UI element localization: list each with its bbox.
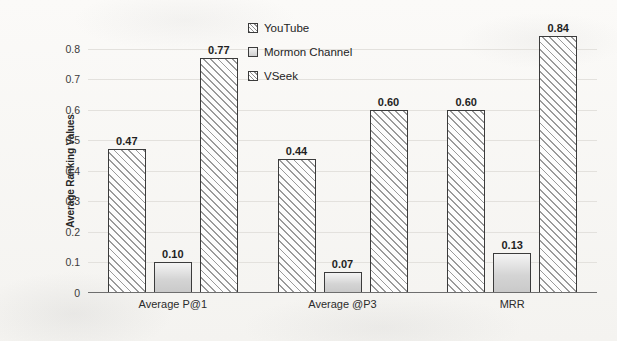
bar-value-label: 0.47 <box>116 135 137 147</box>
bar[interactable]: 0.10 <box>154 262 192 293</box>
bar-group: 0.600.130.84 <box>427 18 597 293</box>
bar-value-label: 0.77 <box>208 44 229 56</box>
bar-slot: 0.84 <box>539 36 577 293</box>
x-axis-category-label: MRR <box>427 298 597 310</box>
x-axis-category-label: Average @P3 <box>258 298 428 310</box>
bar-slot: 0.13 <box>493 253 531 293</box>
bar[interactable]: 0.84 <box>539 36 577 293</box>
bar-value-label: 0.10 <box>162 248 183 260</box>
bar[interactable]: 0.77 <box>200 58 238 293</box>
bar-slot: 0.60 <box>370 110 408 293</box>
y-axis-tick-label: 0.7 <box>65 73 80 85</box>
legend-swatch-icon <box>248 47 258 57</box>
bar[interactable]: 0.47 <box>108 149 146 293</box>
chart-legend: YouTubeMormon ChannelVSeek <box>248 22 352 82</box>
legend-item[interactable]: Mormon Channel <box>248 46 352 58</box>
y-axis-tick-label: 0 <box>74 287 80 299</box>
y-axis-tick-label: 0.6 <box>65 104 80 116</box>
bar-value-label: 0.07 <box>332 258 353 270</box>
bar[interactable]: 0.44 <box>278 159 316 293</box>
bar-slot: 0.10 <box>154 262 192 293</box>
legend-label: Mormon Channel <box>264 46 352 58</box>
bar-value-label: 0.13 <box>501 239 522 251</box>
bar[interactable]: 0.60 <box>370 110 408 293</box>
y-axis-tick-label: 0.3 <box>65 195 80 207</box>
bar-slot: 0.47 <box>108 149 146 293</box>
y-axis-tick-label: 0.4 <box>65 165 80 177</box>
y-axis-tick-label: 0.1 <box>65 256 80 268</box>
bar[interactable]: 0.13 <box>493 253 531 293</box>
y-axis-tick-label: 0.5 <box>65 134 80 146</box>
bar-value-label: 0.60 <box>378 96 399 108</box>
legend-label: YouTube <box>264 22 309 34</box>
bar-slot: 0.77 <box>200 58 238 293</box>
legend-swatch-icon <box>248 23 258 33</box>
x-axis-category-label: Average P@1 <box>88 298 258 310</box>
y-axis-tick-label: 0.8 <box>65 43 80 55</box>
bar-slot: 0.44 <box>278 159 316 293</box>
bar-value-label: 0.84 <box>547 22 568 34</box>
legend-swatch-icon <box>248 71 258 81</box>
x-axis-line <box>88 292 597 294</box>
bar-value-label: 0.44 <box>286 145 307 157</box>
bar-chart: Average Ranking Values 00.10.20.30.40.50… <box>0 0 617 341</box>
bar-slot: 0.60 <box>447 110 485 293</box>
legend-label: VSeek <box>264 70 298 82</box>
y-axis-tick-label: 0.2 <box>65 226 80 238</box>
bar-group: 0.470.100.77 <box>88 18 258 293</box>
legend-item[interactable]: YouTube <box>248 22 352 34</box>
bar[interactable]: 0.60 <box>447 110 485 293</box>
bar-slot: 0.07 <box>324 272 362 293</box>
legend-item[interactable]: VSeek <box>248 70 352 82</box>
bar-value-label: 0.60 <box>455 96 476 108</box>
x-axis-category-labels: Average P@1Average @P3MRR <box>88 298 597 310</box>
bar[interactable]: 0.07 <box>324 272 362 293</box>
